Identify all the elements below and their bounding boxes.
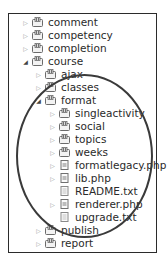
tree-item-label: comment — [48, 16, 98, 29]
tree-item-label: classes — [61, 81, 99, 94]
expand-arrow-icon[interactable]: ▷ — [35, 237, 42, 250]
tree-item-label: singleactivity — [75, 107, 145, 120]
tree-item-label: renderer.php — [75, 198, 143, 211]
package-folder-icon — [32, 17, 43, 27]
tree-item[interactable]: ▷competency — [22, 29, 113, 42]
text-file-icon — [59, 212, 70, 222]
collapse-arrow-icon[interactable]: ◢ — [22, 55, 29, 68]
tree-item[interactable]: ▷publish — [35, 224, 99, 237]
tree-item[interactable]: ▷upgrade.txt — [49, 211, 137, 224]
expand-arrow-icon[interactable]: ▷ — [49, 120, 56, 133]
package-folder-icon — [45, 238, 56, 248]
tree-item[interactable]: ▷formatlegacy.php — [49, 159, 166, 172]
tree-item-label: ajax — [61, 68, 83, 81]
php-file-icon — [59, 160, 70, 170]
tree-item[interactable]: ▷comment — [22, 16, 98, 29]
tree-item-label: course — [48, 55, 83, 68]
expand-arrow-icon[interactable]: ▷ — [49, 133, 56, 146]
expand-arrow-icon[interactable]: ▷ — [35, 68, 42, 81]
expand-arrow-icon[interactable]: ▷ — [49, 172, 56, 185]
expand-arrow-icon[interactable]: ▷ — [49, 146, 56, 159]
tree-item-label: format — [61, 94, 96, 107]
tree-item[interactable]: ▷completion — [22, 42, 107, 55]
tree-item-label: competency — [48, 29, 113, 42]
package-folder-icon — [32, 43, 43, 53]
tree-item-label: topics — [75, 133, 106, 146]
package-folder-icon — [45, 82, 56, 92]
package-folder-icon — [59, 108, 70, 118]
tree-item-label: completion — [48, 42, 107, 55]
tree-item-label: weeks — [75, 146, 108, 159]
tree-item[interactable]: ▷weeks — [49, 146, 108, 159]
package-folder-icon — [45, 225, 56, 235]
tree-item[interactable]: ◢course — [22, 55, 83, 68]
collapse-arrow-icon[interactable]: ◢ — [35, 94, 42, 107]
tree-item[interactable]: ▷ajax — [35, 68, 83, 81]
tree-item[interactable]: ▷renderer.php — [49, 198, 143, 211]
expand-arrow-icon[interactable]: ▷ — [35, 224, 42, 237]
expand-arrow-icon[interactable]: ▷ — [22, 16, 29, 29]
tree-item[interactable]: ◢format — [35, 94, 96, 107]
package-folder-icon — [59, 121, 70, 131]
expand-arrow-icon[interactable]: ▷ — [49, 198, 56, 211]
tree-item[interactable]: ▷singleactivity — [49, 107, 145, 120]
tree-item-label: lib.php — [75, 172, 111, 185]
tree-item-label: upgrade.txt — [75, 211, 137, 224]
tree-item-label: report — [61, 237, 93, 250]
php-file-icon — [59, 173, 70, 183]
package-folder-icon — [59, 147, 70, 157]
package-folder-icon — [32, 56, 43, 66]
package-folder-icon — [59, 134, 70, 144]
tree-item-label: publish — [61, 224, 99, 237]
expand-arrow-icon[interactable]: ▷ — [22, 42, 29, 55]
php-file-icon — [59, 199, 70, 209]
text-file-icon — [59, 186, 70, 196]
tree-item-label: formatlegacy.php — [75, 159, 166, 172]
tree-item-label: README.txt — [75, 185, 138, 198]
package-folder-icon — [45, 69, 56, 79]
tree-item[interactable]: ▷classes — [35, 81, 99, 94]
tree-item-label: social — [75, 120, 105, 133]
package-folder-icon — [32, 30, 43, 40]
tree-item[interactable]: ▷topics — [49, 133, 106, 146]
tree-item[interactable]: ▷README.txt — [49, 185, 138, 198]
package-folder-icon — [45, 95, 56, 105]
tree-item[interactable]: ▷lib.php — [49, 172, 111, 185]
expand-arrow-icon[interactable]: ▷ — [22, 29, 29, 42]
expand-arrow-icon[interactable]: ▷ — [49, 159, 56, 172]
expand-arrow-icon[interactable]: ▷ — [49, 107, 56, 120]
tree-item[interactable]: ▷social — [49, 120, 105, 133]
tree-item[interactable]: ▷report — [35, 237, 93, 250]
expand-arrow-icon[interactable]: ▷ — [35, 81, 42, 94]
